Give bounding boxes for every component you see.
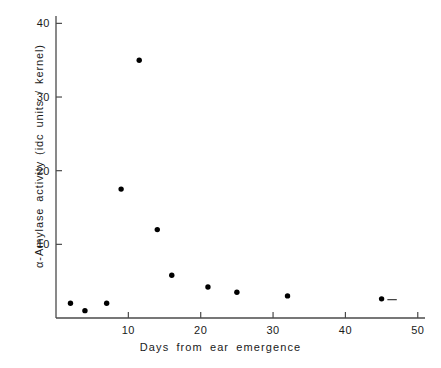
data-point-markers (68, 57, 385, 313)
x-tick-label: 30 (266, 324, 279, 336)
data-point (82, 308, 87, 313)
data-point (155, 227, 160, 232)
y-tick-label: 40 (18, 17, 50, 29)
x-tick-label: 20 (194, 324, 207, 336)
y-axis-ticks (56, 23, 62, 244)
data-point (137, 57, 142, 62)
x-tick-label: 50 (411, 324, 424, 336)
data-point (234, 290, 239, 295)
x-tick-label: 40 (339, 324, 352, 336)
data-point (104, 301, 109, 306)
x-tick-label: 10 (122, 324, 135, 336)
x-axis-title: Days from ear emergence (0, 341, 441, 353)
data-point (205, 284, 210, 289)
data-point (169, 273, 174, 278)
axis-lines (56, 16, 425, 318)
data-point (68, 301, 73, 306)
x-axis-ticks (128, 312, 417, 318)
data-point (118, 186, 123, 191)
data-point (285, 293, 290, 298)
data-point (379, 296, 384, 301)
y-axis-title: α-Amylase activity (idc units / kernel) (33, 31, 45, 281)
chart-plot-area (0, 0, 441, 368)
figure-container: 1020304050 10203040 Days from ear emerge… (0, 0, 441, 368)
